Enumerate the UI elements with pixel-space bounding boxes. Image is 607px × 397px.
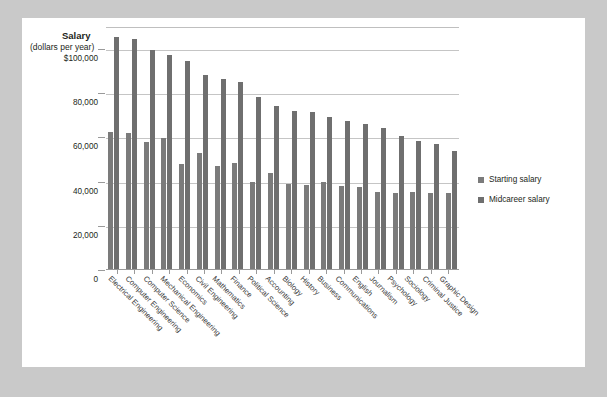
bar-group[interactable]: [286, 28, 297, 269]
bar-midcareer-salary[interactable]: [274, 106, 279, 269]
bar-group[interactable]: [446, 28, 457, 269]
bar-group[interactable]: [215, 28, 226, 269]
bar-group[interactable]: [393, 28, 404, 269]
bar-midcareer-salary[interactable]: [363, 124, 368, 269]
chart-panel: Salary (dollars per year) $100,00080,000…: [22, 18, 585, 367]
y-axis-tick-label: 40,000: [73, 186, 98, 195]
bar-starting-salary[interactable]: [108, 132, 113, 269]
bar-midcareer-salary[interactable]: [221, 79, 226, 269]
bar-midcareer-salary[interactable]: [345, 121, 350, 269]
bar-group[interactable]: [410, 28, 421, 269]
chart-legend: Starting salary Midcareer salary: [478, 175, 550, 215]
bar-midcareer-salary[interactable]: [327, 117, 332, 269]
bar-series-container: [106, 28, 459, 269]
bar-starting-salary[interactable]: [321, 182, 326, 269]
bar-starting-salary[interactable]: [126, 133, 131, 269]
bar-starting-salary[interactable]: [339, 186, 344, 269]
bar-midcareer-salary[interactable]: [434, 144, 439, 269]
bar-starting-salary[interactable]: [161, 138, 166, 269]
y-axis-tick-label: 80,000: [73, 98, 98, 107]
bar-midcareer-salary[interactable]: [310, 112, 315, 269]
y-axis-ticks: [98, 27, 106, 270]
y-axis-tick-label: 60,000: [73, 142, 98, 151]
bar-group[interactable]: [375, 28, 386, 269]
bar-midcareer-salary[interactable]: [381, 128, 386, 269]
bar-group[interactable]: [268, 28, 279, 269]
legend-label-midcareer-salary: Midcareer salary: [489, 195, 550, 204]
bar-starting-salary[interactable]: [179, 164, 184, 269]
bar-starting-salary[interactable]: [357, 187, 362, 269]
y-axis-tick-mark: [98, 49, 105, 50]
legend-swatch-starting-salary: [478, 177, 484, 183]
bar-midcareer-salary[interactable]: [185, 61, 190, 269]
bar-midcareer-salary[interactable]: [114, 37, 119, 269]
bar-group[interactable]: [144, 28, 155, 269]
bar-group[interactable]: [197, 28, 208, 269]
bar-group[interactable]: [108, 28, 119, 269]
bar-midcareer-salary[interactable]: [256, 97, 261, 269]
legend-swatch-midcareer-salary: [478, 197, 484, 203]
y-axis-tick-mark: [98, 226, 105, 227]
bar-midcareer-salary[interactable]: [167, 55, 172, 269]
bar-group[interactable]: [339, 28, 350, 269]
y-axis-tick-mark: [98, 270, 105, 271]
y-axis-tick-label: 0: [93, 275, 98, 284]
bar-starting-salary[interactable]: [232, 163, 237, 269]
bar-midcareer-salary[interactable]: [399, 136, 404, 269]
bar-starting-salary[interactable]: [304, 185, 309, 269]
bar-starting-salary[interactable]: [375, 192, 380, 269]
bar-group[interactable]: [304, 28, 315, 269]
x-axis-labels: Electrical EngineeringComputer Engineeri…: [106, 274, 459, 364]
y-axis-tick-mark: [98, 137, 105, 138]
legend-item-starting-salary[interactable]: Starting salary: [478, 175, 550, 184]
bar-starting-salary[interactable]: [393, 193, 398, 269]
y-axis-tick-mark: [98, 93, 105, 94]
bar-starting-salary[interactable]: [144, 142, 149, 269]
bar-starting-salary[interactable]: [268, 173, 273, 269]
bar-starting-salary[interactable]: [215, 166, 220, 269]
bar-group[interactable]: [232, 28, 243, 269]
legend-item-midcareer-salary[interactable]: Midcareer salary: [478, 195, 550, 204]
bar-group[interactable]: [357, 28, 368, 269]
bar-starting-salary[interactable]: [250, 182, 255, 269]
bar-group[interactable]: [428, 28, 439, 269]
bar-midcareer-salary[interactable]: [132, 39, 137, 269]
legend-label-starting-salary: Starting salary: [489, 175, 541, 184]
bar-midcareer-salary[interactable]: [452, 151, 457, 269]
bar-starting-salary[interactable]: [197, 153, 202, 269]
bar-midcareer-salary[interactable]: [416, 141, 421, 269]
bar-midcareer-salary[interactable]: [238, 82, 243, 269]
bar-midcareer-salary[interactable]: [203, 75, 208, 269]
bar-starting-salary[interactable]: [446, 193, 451, 269]
bar-group[interactable]: [321, 28, 332, 269]
bar-starting-salary[interactable]: [428, 193, 433, 269]
y-axis-labels: $100,00080,00060,00040,00020,0000: [22, 27, 106, 270]
bar-midcareer-salary[interactable]: [150, 50, 155, 269]
bar-group[interactable]: [179, 28, 190, 269]
plot-area: [106, 27, 459, 270]
bar-starting-salary[interactable]: [286, 184, 291, 269]
bar-group[interactable]: [161, 28, 172, 269]
bar-group[interactable]: [126, 28, 137, 269]
y-axis-tick-label: 20,000: [73, 230, 98, 239]
bar-group[interactable]: [250, 28, 261, 269]
bar-midcareer-salary[interactable]: [292, 111, 297, 269]
y-axis-tick-label: $100,000: [64, 54, 98, 63]
y-axis-tick-mark: [98, 182, 105, 183]
bar-starting-salary[interactable]: [410, 192, 415, 269]
